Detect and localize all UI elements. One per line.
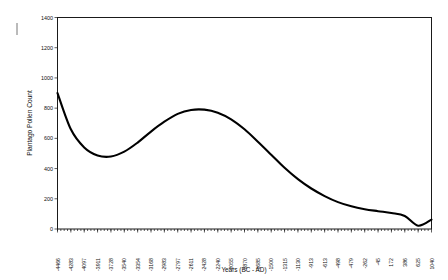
x-tick-label-10: -2611 <box>188 258 194 271</box>
x-tick-label-1: -4283 <box>68 258 74 271</box>
x-tick-label-18: -1130 <box>295 258 301 271</box>
x-tick-label-23: -262 <box>362 258 368 268</box>
y-axis-tick-labels: 0200400600800100012001400 <box>41 15 53 233</box>
x-tick-label-5: -3540 <box>121 258 127 271</box>
y-tick-label-5: 1000 <box>41 75 53 81</box>
x-tick-label-8: -2983 <box>161 258 167 271</box>
x-tick-label-17: -1315 <box>282 258 288 271</box>
pollen-series-line <box>58 93 432 226</box>
y-tick-label-2: 400 <box>44 166 53 172</box>
x-tick-label-4: -3728 <box>108 258 114 271</box>
x-tick-label-26: 386 <box>402 258 408 267</box>
x-tick-label-24: -45 <box>375 258 381 266</box>
y-tick-label-1: 200 <box>44 196 53 202</box>
x-tick-label-6: -3354 <box>135 258 141 271</box>
y-tick-label-4: 800 <box>44 105 53 111</box>
pollen-count-chart: 0200400600800100012001400 -4466-4283-409… <box>0 0 448 280</box>
y-tick-label-3: 600 <box>44 135 53 141</box>
x-tick-label-25: 172 <box>388 258 394 267</box>
y-tick-label-7: 1400 <box>41 15 53 21</box>
x-tick-label-19: -913 <box>308 258 314 268</box>
x-axis-title: Years (BC - AD) <box>221 266 266 274</box>
x-tick-label-9: -2797 <box>175 258 181 271</box>
x-tick-label-12: -2240 <box>215 258 221 271</box>
x-axis-ticks <box>58 229 432 233</box>
x-tick-label-0: -4466 <box>55 258 61 271</box>
x-tick-label-7: -3168 <box>148 258 154 271</box>
x-tick-label-2: -4097 <box>81 258 87 271</box>
y-tick-label-0: 0 <box>50 226 53 232</box>
x-tick-label-3: -3911 <box>95 258 101 271</box>
x-tick-label-16: -1500 <box>268 258 274 271</box>
y-axis-title: Plantago Pollen Count <box>26 90 34 156</box>
x-tick-label-20: -613 <box>322 258 328 268</box>
y-tick-label-6: 1200 <box>41 45 53 51</box>
x-tick-label-28: 1040 <box>429 258 435 270</box>
x-tick-label-21: -498 <box>335 258 341 268</box>
x-tick-label-27: 625 <box>415 258 421 267</box>
x-tick-label-11: -2428 <box>201 258 207 271</box>
chart-svg: 0200400600800100012001400 -4466-4283-409… <box>0 0 448 280</box>
x-tick-label-22: -479 <box>348 258 354 268</box>
plot-frame <box>58 18 432 230</box>
